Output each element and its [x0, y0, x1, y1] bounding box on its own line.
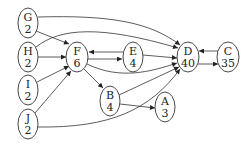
- edge-g-d: [38, 17, 180, 45]
- edge-f-b: [84, 69, 103, 88]
- node-g-value: 2: [25, 23, 32, 36]
- edge-e-d: [143, 55, 177, 58]
- edge-h-d: [36, 32, 178, 48]
- node-c: C 35: [217, 42, 239, 72]
- node-i: I 2: [18, 75, 38, 105]
- node-e: E 4: [123, 42, 143, 72]
- node-h-value: 2: [25, 57, 32, 70]
- node-f: F 6: [66, 42, 88, 72]
- edge-j-f: [35, 71, 71, 113]
- node-f-value: 6: [74, 57, 81, 70]
- node-d: D 40: [177, 42, 199, 72]
- node-i-value: 2: [25, 90, 32, 103]
- node-a: A 3: [155, 92, 175, 122]
- node-e-value: 4: [130, 57, 137, 70]
- node-a-value: 3: [162, 107, 169, 120]
- directed-graph: G 2 H 2 I 2 J 2 F 6 E 4 D 40 C 35 B 4: [0, 0, 251, 144]
- node-d-value: 40: [181, 57, 195, 70]
- node-j: J 2: [18, 109, 38, 139]
- edge-i-f: [37, 66, 69, 82]
- node-j-value: 2: [25, 124, 32, 137]
- node-b-value: 4: [107, 101, 114, 114]
- node-b: B 4: [100, 86, 120, 116]
- node-h: H 2: [18, 42, 38, 72]
- node-c-value: 35: [221, 57, 235, 70]
- node-g: G 2: [18, 8, 38, 38]
